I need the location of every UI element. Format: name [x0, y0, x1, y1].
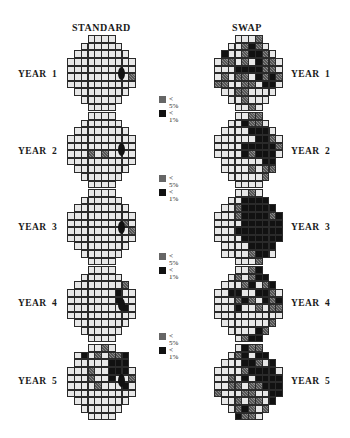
year-label-standard-3: YEAR 3 — [18, 222, 57, 232]
cell-p1 — [269, 158, 277, 166]
significance-legend: <5% <1% — [159, 333, 189, 361]
visual-field-standard-year-1 — [64, 36, 140, 112]
cell-p5 — [269, 165, 277, 173]
cell-normal — [108, 335, 116, 343]
visual-field-swap-year-2 — [211, 113, 287, 189]
cell-p1 — [269, 242, 277, 250]
cell-normal — [128, 297, 136, 305]
grid-row — [64, 258, 140, 266]
grid-row — [211, 258, 287, 266]
visual-field-standard-year-3 — [64, 190, 140, 266]
cell-normal — [128, 304, 136, 312]
cell-normal — [275, 81, 283, 89]
cell-p5 — [275, 304, 283, 312]
cell-p5 — [262, 405, 270, 413]
cell-p1 — [275, 375, 283, 383]
p5-swatch-icon — [159, 253, 166, 260]
cell-p1 — [262, 274, 270, 282]
cell-p5 — [128, 73, 136, 81]
cell-normal — [122, 88, 130, 96]
cell-normal — [262, 43, 270, 51]
cell-normal — [255, 181, 263, 189]
visual-field-swap-year-5 — [211, 345, 287, 421]
cell-normal — [269, 50, 277, 58]
cell-normal — [128, 66, 136, 74]
grid-row — [64, 335, 140, 343]
cell-p1 — [122, 359, 130, 367]
cell-p1 — [275, 220, 283, 228]
cell-p5 — [262, 327, 270, 335]
cell-normal — [108, 35, 116, 43]
cell-p1 — [275, 212, 283, 220]
cell-p5 — [275, 143, 283, 151]
year-label-standard-5: YEAR 5 — [18, 376, 57, 386]
cell-normal — [275, 367, 283, 375]
cell-normal — [128, 382, 136, 390]
p5-swatch-icon — [159, 333, 166, 340]
blind-spot-icon — [118, 374, 125, 387]
cell-normal — [115, 405, 123, 413]
grid-row — [211, 181, 287, 189]
year-label-swap-2: YEAR 2 — [291, 146, 330, 156]
cell-normal — [262, 96, 270, 104]
cell-p5 — [275, 73, 283, 81]
year-label-swap-1: YEAR 1 — [291, 69, 330, 79]
cell-normal — [108, 189, 116, 197]
cell-p1 — [275, 297, 283, 305]
cell-p1 — [269, 359, 277, 367]
cell-normal — [108, 181, 116, 189]
year-label-standard-1: YEAR 1 — [18, 69, 57, 79]
cell-p1 — [269, 281, 277, 289]
cell-normal — [255, 104, 263, 112]
cell-p1 — [255, 266, 263, 274]
cell-normal — [269, 127, 277, 135]
cell-normal — [108, 344, 116, 352]
cell-normal — [128, 58, 136, 66]
visual-field-swap-year-1 — [211, 36, 287, 112]
cell-normal — [128, 150, 136, 158]
cell-normal — [115, 120, 123, 128]
cell-normal — [275, 312, 283, 320]
grid-row — [211, 413, 287, 421]
blind-spot-icon — [118, 298, 125, 311]
grid-row — [64, 104, 140, 112]
cell-normal — [115, 173, 123, 181]
cell-p5 — [262, 173, 270, 181]
cell-normal — [128, 235, 136, 243]
cell-p1 — [275, 382, 283, 390]
cell-p1 — [275, 227, 283, 235]
cell-p1 — [262, 197, 270, 205]
cell-p5 — [255, 344, 263, 352]
cell-normal — [128, 289, 136, 297]
cell-p5 — [128, 375, 136, 383]
cell-p1 — [262, 352, 270, 360]
cell-p5 — [255, 112, 263, 120]
cell-normal — [262, 120, 270, 128]
cell-p1 — [255, 335, 263, 343]
cell-p1 — [269, 204, 277, 212]
cell-normal — [115, 96, 123, 104]
grid-row — [211, 335, 287, 343]
cell-normal — [108, 112, 116, 120]
cell-p5 — [128, 227, 136, 235]
cell-normal — [269, 88, 277, 96]
year-label-standard-4: YEAR 4 — [18, 298, 57, 308]
visual-field-swap-year-3 — [211, 190, 287, 266]
blind-spot-icon — [118, 221, 125, 234]
cell-normal — [115, 250, 123, 258]
cell-normal — [108, 266, 116, 274]
year-label-standard-2: YEAR 2 — [18, 146, 57, 156]
blind-spot-icon — [118, 143, 125, 156]
visual-field-standard-year-5 — [64, 345, 140, 421]
p1-swatch-icon — [159, 347, 166, 354]
visual-field-standard-year-2 — [64, 113, 140, 189]
swap-column-title: SWAP — [232, 22, 262, 33]
cell-normal — [128, 158, 136, 166]
cell-normal — [128, 390, 136, 398]
cell-normal — [128, 135, 136, 143]
cell-p1 — [275, 235, 283, 243]
year-label-swap-5: YEAR 5 — [291, 376, 330, 386]
cell-normal — [128, 312, 136, 320]
cell-normal — [275, 58, 283, 66]
cell-p5 — [255, 258, 263, 266]
